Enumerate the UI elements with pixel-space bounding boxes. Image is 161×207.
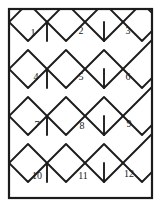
tile-label-2: 2	[79, 25, 84, 36]
tile-label-10: 10	[32, 170, 42, 181]
tile-label-8: 8	[80, 120, 85, 131]
tile-label-7: 7	[35, 119, 40, 130]
tile-label-5: 5	[79, 71, 84, 82]
tiling-figure: 123456789101112	[0, 0, 161, 207]
tile-label-4: 4	[34, 71, 39, 82]
tile-label-3: 3	[126, 25, 131, 36]
tile-label-9: 9	[127, 118, 132, 129]
tile-label-1: 1	[31, 27, 36, 38]
tile-label-6: 6	[126, 71, 131, 82]
tile-label-12: 12	[124, 168, 134, 179]
tile-label-11: 11	[78, 170, 88, 181]
tiling-diagram: 123456789101112	[0, 0, 161, 207]
